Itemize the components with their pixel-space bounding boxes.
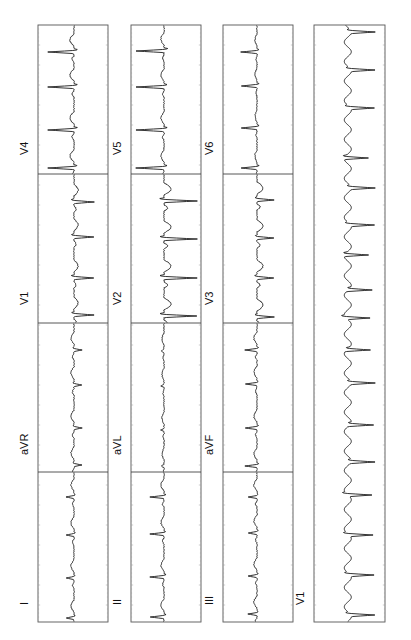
- lead-label-v1: V1: [294, 592, 306, 605]
- lead-label-v4: V4: [18, 142, 30, 155]
- trace-avl: [161, 324, 165, 472]
- lead-label-avr: aVR: [18, 434, 30, 455]
- trace-avr: [71, 324, 83, 472]
- trace-ii: [150, 473, 166, 622]
- lead-label-v1: V1: [18, 292, 30, 305]
- tick-marks: [38, 29, 385, 621]
- ecg-chart: IaVRV1V4IIaVLV2V5IIIaVFV3V6V1: [0, 0, 411, 640]
- ecg-traces: [48, 26, 376, 622]
- trace-v6: [241, 26, 259, 174]
- lead-label-v5: V5: [111, 142, 123, 155]
- rhythm-strip-frame: [314, 25, 385, 622]
- trace-v1: [71, 175, 94, 323]
- trace-iii: [248, 473, 259, 622]
- lead-label-v6: V6: [203, 142, 215, 155]
- trace-v1-rhythm: [342, 26, 376, 622]
- row-2-frame: [131, 25, 201, 622]
- lead-label-ii: II: [111, 599, 123, 605]
- trace-v3: [255, 175, 275, 323]
- lead-label-iii: III: [203, 596, 215, 605]
- lead-label-avl: aVL: [111, 435, 123, 455]
- trace-v5: [136, 26, 168, 174]
- lead-dividers: [38, 174, 293, 472]
- trace-i: [66, 473, 75, 622]
- trace-v2: [160, 175, 198, 323]
- lead-label-v3: V3: [203, 292, 215, 305]
- row-1-frame: [38, 25, 108, 622]
- lead-label-v2: V2: [111, 292, 123, 305]
- lead-label-i: I: [18, 602, 30, 605]
- trace-v4: [48, 26, 78, 174]
- strip-frames: [38, 25, 385, 622]
- row-3-frame: [223, 25, 293, 622]
- lead-label-avf: aVF: [203, 435, 215, 455]
- trace-avf: [245, 324, 259, 472]
